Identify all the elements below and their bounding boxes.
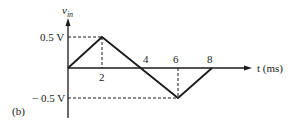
x-tick-8: 8 <box>207 53 213 65</box>
x-tick-2: 2 <box>99 71 105 83</box>
x-axis-label: t (ms) <box>257 62 283 75</box>
y-axis-label: vin <box>62 4 73 19</box>
x-tick-6: 6 <box>173 53 179 65</box>
x-tick-4: 4 <box>143 53 149 65</box>
y-axis-arrow-icon <box>66 18 71 26</box>
panel-label: (b) <box>12 105 25 118</box>
x-axis-arrow-icon <box>244 66 252 71</box>
y-tick-neg: − 0.5 V <box>32 92 65 104</box>
y-tick-pos: 0.5 V <box>40 31 64 43</box>
waveform-chart: vin 0.5 V − 0.5 V 2 4 6 8 t (ms) (b) <box>0 0 292 124</box>
